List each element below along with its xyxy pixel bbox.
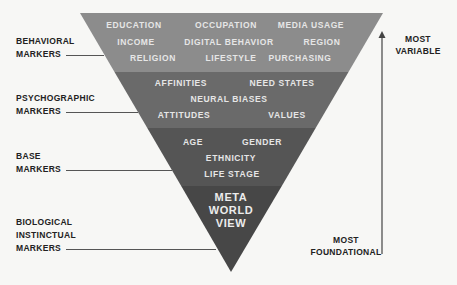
band-item-gender: GENDER <box>242 137 282 147</box>
leader-line-psychographic <box>66 112 138 113</box>
axis-label-line: FOUNDATIONAL <box>311 247 382 259</box>
meta-line-2: WORLD <box>209 204 254 217</box>
label-psychographic-markers: PSYCHOGRAPHIC MARKERS <box>16 92 95 118</box>
band-item-life-stage: LIFE STAGE <box>204 169 259 179</box>
label-behavioral-markers: BEHAVIORAL MARKERS <box>16 35 75 61</box>
leader-line-behavioral <box>66 55 104 56</box>
band-item-religion: RELIGION <box>130 53 176 63</box>
axis-label-most-foundational: MOST FOUNDATIONAL <box>311 235 382 258</box>
label-line: MARKERS <box>16 242 76 255</box>
meta-world-view-label: META WORLD VIEW <box>209 191 254 230</box>
label-line: BASE <box>16 150 61 163</box>
meta-line-3: VIEW <box>209 217 254 230</box>
band-item-region: REGION <box>303 37 340 47</box>
axis-label-line: VARIABLE <box>395 46 440 58</box>
band-item-attitudes: ATTITUDES <box>158 110 210 120</box>
band-item-ethnicity: ETHNICITY <box>206 153 256 163</box>
band-item-education: EDUCATION <box>106 20 161 30</box>
label-line: PSYCHOGRAPHIC <box>16 92 95 105</box>
leader-line-biological <box>66 249 216 250</box>
band-item-age: AGE <box>183 137 203 147</box>
band-item-values: VALUES <box>268 110 305 120</box>
axis-label-line: MOST <box>311 235 382 247</box>
leader-line-base <box>66 170 172 171</box>
label-line: INSTINCTUAL <box>16 229 76 242</box>
label-line: BEHAVIORAL <box>16 35 75 48</box>
axis-label-line: MOST <box>395 34 440 46</box>
band-item-neural-biases: NEURAL BIASES <box>190 94 267 104</box>
label-line: MARKERS <box>16 163 61 176</box>
band-item-purchasing: PURCHASING <box>268 53 331 63</box>
band-item-affinities: AFFINITIES <box>155 78 207 88</box>
meta-line-1: META <box>209 191 254 204</box>
band-item-income: INCOME <box>117 37 155 47</box>
band-item-digital-behavior: DIGITAL BEHAVIOR <box>184 37 273 47</box>
band-item-occupation: OCCUPATION <box>195 20 257 30</box>
label-line: BIOLOGICAL <box>16 216 76 229</box>
band-item-lifestyle: LIFESTYLE <box>205 53 256 63</box>
label-base-markers: BASE MARKERS <box>16 150 61 176</box>
band-item-media-usage: MEDIA USAGE <box>278 20 344 30</box>
axis-label-most-variable: MOST VARIABLE <box>395 34 440 57</box>
arrow-up-icon <box>379 31 386 38</box>
band-item-need-states: NEED STATES <box>250 78 315 88</box>
